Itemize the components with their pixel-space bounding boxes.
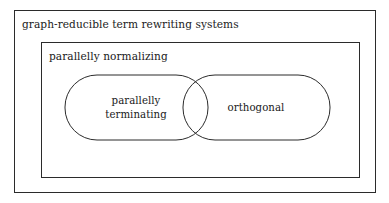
euler-diagram: graph-reducible term rewriting systems p… — [0, 0, 389, 203]
middle-region-label: parallelly normalizing — [49, 50, 168, 62]
outer-region-box — [14, 10, 375, 192]
left-set-shape — [65, 75, 208, 140]
middle-region-box — [41, 42, 359, 177]
left-set-label-line1: parallelly — [112, 95, 161, 106]
outer-region-label: graph-reducible term rewriting systems — [22, 18, 239, 30]
diagram-canvas: graph-reducible term rewriting systems p… — [0, 0, 389, 203]
left-set-label-line2: terminating — [105, 109, 167, 120]
right-set-label: orthogonal — [228, 102, 285, 113]
